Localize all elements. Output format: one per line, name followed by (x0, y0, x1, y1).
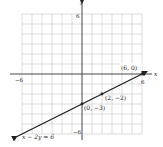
point-6-0 (141, 73, 144, 76)
point-label-6-0: (6, 0) (121, 64, 137, 71)
coordinate-plane: x y −6 6 6 −6 (6, 0) (2, −2) (0, −3) x −… (0, 0, 163, 147)
point-2-neg2 (101, 93, 104, 96)
x-min-tick-label: −6 (15, 77, 24, 83)
point-label-2-neg2: (2, −2) (105, 94, 126, 101)
x-axis-label: x (154, 70, 158, 77)
y-max-tick-label: 6 (76, 13, 80, 19)
y-min-tick-label: −6 (73, 129, 82, 135)
x-max-tick-label: 6 (141, 79, 145, 85)
point-0-neg3 (81, 103, 84, 106)
equation-label: x − 2y = 6 (22, 133, 54, 141)
point-label-0-neg3: (0, −3) (84, 104, 105, 111)
line-graph-figure: x y −6 6 6 −6 (6, 0) (2, −2) (0, −3) x −… (0, 0, 163, 147)
